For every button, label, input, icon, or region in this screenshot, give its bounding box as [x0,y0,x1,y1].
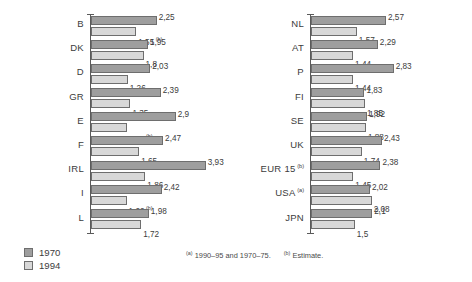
bar-1994: 1,88 [311,123,366,132]
category-label: USA (a) [236,187,304,198]
bar-1970: 2,02 [311,185,370,194]
bar-row: B2,251,55 (b) [0,14,236,38]
bar-group: 2,421,22 (b) [91,183,234,207]
bar-row: JPN2,11,5 [236,208,472,232]
bar-value-label: 1,5 [354,230,368,239]
bar-1994: 1,65 [91,147,139,156]
bar-1994: 1,85 [311,99,365,108]
axis-cap-bottom-left [87,233,94,234]
bar-group: 2,11,5 [311,208,470,232]
bar-1970: 2,83 [311,64,394,73]
bar-1970: 1,92 [311,112,367,121]
category-label: NL [236,18,304,29]
bar-1970: 2,29 [311,40,378,49]
bar-row: UK2,431,74 [236,135,472,159]
bar-value-label: 2,57 [385,13,404,22]
bar-group: 2,831,44 [311,62,470,86]
bar-value-label: 3,93 [205,158,224,167]
bar-value-label: 2,43 [381,134,400,143]
bar-group: 1,981,72 [91,208,234,232]
bar-group: 2,431,74 [311,135,470,159]
bar-1994: 1,74 [311,147,362,156]
bar-1970: 2,39 [91,88,161,97]
category-label: EUR 15 (b) [236,163,304,174]
bar-1994: 1,44 [311,51,353,60]
legend-swatch-1970 [24,248,33,257]
bar-value-label: 2,9 [175,110,189,119]
category-label: E [0,115,84,126]
bar-value-label: 2,25 [156,13,175,22]
bar-value-label: 1,83 [363,86,382,95]
legend-item-1994: 1994 [24,259,60,272]
bar-value-label: 2,83 [393,62,412,71]
category-label: AT [236,42,304,53]
category-label: SE [236,115,304,126]
chart-panel-left: B2,251,55 (b)DK1,951,8D2,031,26GR2,391,3… [0,10,236,238]
bar-value-label: 2,39 [160,86,179,95]
bar-group: 2,471,65 [91,135,234,159]
bar-1994: 1,45 [311,172,353,181]
bar-group: 2,291,44 [311,38,470,62]
category-label: FI [236,91,304,102]
bar-1970: 2,38 [311,161,380,170]
bar-value-label: 2,03 [149,62,168,71]
category-label: F [0,139,84,150]
bar-group: 2,381,45 [311,159,470,183]
bar-row: E2,91,22 (b) [0,111,236,135]
bar-row: P2,831,44 [236,62,472,86]
bar-1994: 1,5 [311,220,355,229]
bar-1970: 2,57 [311,16,386,25]
bar-group: 3,931,86 [91,159,234,183]
bar-value-label: 1,92 [366,110,385,119]
bar-1970: 2,25 [91,16,157,25]
bar-group: 1,921,88 [311,111,470,135]
bar-1994: 1,22 (b) [91,123,127,132]
bar-rows-left: B2,251,55 (b)DK1,951,8D2,031,26GR2,391,3… [0,14,236,232]
bar-1970: 1,98 [91,209,149,218]
bar-value-label: 2,1 [371,207,385,216]
category-label: D [0,66,84,77]
bar-1970: 1,83 [311,88,364,97]
category-label-footnote: (a) [296,187,304,193]
bar-1970: 3,93 [91,161,206,170]
legend-label-1994: 1994 [39,260,60,271]
axis-cap-bottom-right [307,233,314,234]
bar-value-label: 1,95 [147,38,166,47]
bar-row: IRL3,931,86 [0,159,236,183]
footnote-text-b: Estimate. [292,251,323,260]
category-label: GR [0,91,84,102]
category-label-footnote: (b) [296,163,304,169]
bar-group: 2,91,22 (b) [91,111,234,135]
footnote-marker-b: (b) [284,250,291,256]
chart-footnotes: (a) 1990–95 and 1970–75. (b) Estimate. [186,250,323,260]
bar-group: 2,391,35 [91,87,234,111]
bar-1994: 1,72 [91,220,141,229]
bar-1994: 1,26 [91,75,128,84]
bar-1970: 2,1 [311,209,372,218]
bar-row: F2,471,65 [0,135,236,159]
bar-group: 2,571,57 [311,14,470,38]
bar-1970: 2,03 [91,64,150,73]
bar-row: D2,031,26 [0,62,236,86]
bar-1970: 2,42 [91,185,162,194]
bar-value-label: 2,47 [162,134,181,143]
category-label: DK [0,42,84,53]
bar-row: SE1,921,88 [236,111,472,135]
bar-row: AT2,291,44 [236,38,472,62]
bar-row: I2,421,22 (b) [0,183,236,207]
bar-row: NL2,571,57 [236,14,472,38]
bar-rows-right: NL2,571,57AT2,291,44P2,831,44FI1,831,85S… [236,14,472,232]
bar-value-label: 2,02 [369,183,388,192]
bar-1994: 1,55 (b) [91,27,136,36]
category-label: UK [236,139,304,150]
bar-group: 1,831,85 [311,87,470,111]
bar-value-label: 2,29 [377,38,396,47]
bar-1970: 2,9 [91,112,176,121]
bar-1970: 2,43 [311,136,382,145]
bar-row: L1,981,72 [0,208,236,232]
bar-group: 2,031,26 [91,62,234,86]
bar-chart-figure: B2,251,55 (b)DK1,951,8D2,031,26GR2,391,3… [0,0,472,282]
bar-1994: 1,44 [311,75,353,84]
bar-1994: 1,35 [91,99,130,108]
bar-group: 2,251,55 (b) [91,14,234,38]
